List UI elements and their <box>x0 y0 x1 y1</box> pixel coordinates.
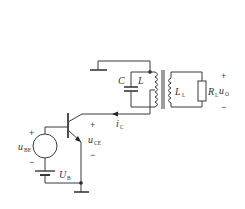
battery-ub <box>35 171 55 183</box>
label-ube: u <box>18 141 23 152</box>
transformer-core <box>162 70 164 109</box>
secondary-inductor-coil <box>169 78 172 103</box>
load-resistor <box>198 81 206 101</box>
npn-transistor <box>45 113 82 142</box>
collector-wire <box>82 112 150 117</box>
label-rl: R <box>207 86 214 97</box>
uo-minus: − <box>221 102 226 112</box>
label-l: L <box>137 75 144 86</box>
voltage-source-ube <box>33 127 57 171</box>
label-uce-sub: CE <box>94 140 102 146</box>
ube-minus: − <box>29 157 34 167</box>
circuit-diagram: C L L L R L u O + − i C + u CE − + u BE … <box>0 0 245 209</box>
label-ic: i <box>116 118 119 129</box>
label-ub-sub: B <box>67 175 71 181</box>
label-uce: u <box>88 134 93 145</box>
capacitor-symbol <box>124 87 138 91</box>
label-ll-sub: L <box>182 92 186 98</box>
label-uo-sub: O <box>225 91 229 97</box>
uo-plus: + <box>221 71 226 81</box>
uce-plus: + <box>90 120 95 130</box>
label-ub: U <box>59 169 67 180</box>
current-arrow-icon <box>112 112 118 117</box>
primary-inductor-coil <box>155 72 158 107</box>
label-ll: L <box>174 86 181 97</box>
ground <box>45 181 89 192</box>
label-uo: u <box>219 85 224 96</box>
label-ic-sub: C <box>120 124 124 130</box>
label-ube-sub: BE <box>24 147 32 153</box>
ube-plus: + <box>29 128 34 138</box>
label-c: C <box>118 75 125 86</box>
uce-minus: − <box>90 150 95 160</box>
